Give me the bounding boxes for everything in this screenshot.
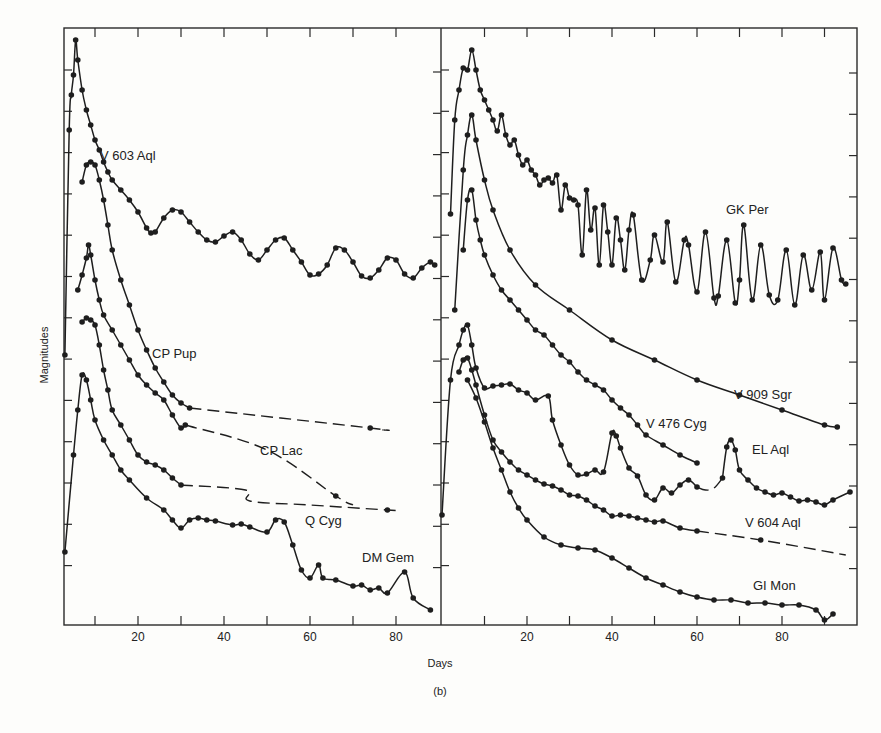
data-point: [135, 209, 141, 215]
data-point: [660, 442, 666, 448]
x-tick-label: 40: [217, 630, 231, 644]
data-point: [170, 475, 176, 481]
series-label: EL Aql: [752, 442, 789, 457]
data-point: [550, 180, 556, 186]
data-point: [376, 585, 382, 591]
data-point: [473, 67, 479, 73]
data-point: [350, 259, 356, 265]
data-point: [660, 582, 666, 588]
data-point: [626, 465, 632, 471]
data-point: [97, 177, 103, 183]
data-point: [118, 187, 124, 193]
data-point: [71, 72, 77, 78]
data-point: [694, 460, 700, 466]
data-point: [333, 493, 339, 499]
data-point: [482, 177, 488, 183]
data-point: [92, 162, 98, 168]
data-point: [109, 327, 115, 333]
data-point: [460, 327, 466, 333]
data-point: [367, 425, 373, 431]
data-point: [482, 419, 488, 425]
data-point: [558, 352, 564, 358]
data-point: [161, 397, 167, 403]
data-point: [728, 597, 734, 603]
data-point: [575, 369, 581, 375]
data-point: [79, 179, 85, 185]
data-point: [170, 207, 176, 213]
data-point: [97, 342, 103, 348]
data-point: [673, 279, 679, 285]
data-point: [537, 182, 543, 188]
data-point: [105, 387, 111, 393]
x-tick-label: 20: [520, 630, 534, 644]
data-point: [516, 307, 522, 313]
data-point: [732, 300, 738, 306]
data-point: [359, 273, 365, 279]
data-point: [118, 467, 124, 473]
dashed-extrapolation-line: [181, 485, 400, 511]
data-point: [562, 182, 568, 188]
data-point: [524, 390, 530, 396]
series-label: CP Lac: [260, 443, 303, 458]
data-point: [626, 412, 632, 418]
data-point: [694, 377, 700, 383]
data-point: [596, 262, 602, 268]
data-point: [715, 293, 721, 299]
data-point: [507, 247, 513, 253]
data-point: [490, 207, 496, 213]
data-point: [779, 490, 785, 496]
data-point: [575, 472, 581, 478]
data-point: [613, 215, 619, 221]
data-point: [686, 242, 692, 248]
data-point: [609, 513, 615, 519]
series-label: V 604 Aql: [745, 515, 801, 530]
data-point: [86, 242, 92, 248]
data-point: [144, 495, 150, 501]
x-tick-label: 60: [690, 630, 704, 644]
data-point: [230, 229, 236, 235]
data-point: [92, 137, 98, 143]
x-axis-label: Days: [427, 657, 453, 669]
data-point: [187, 219, 193, 225]
data-point: [465, 197, 471, 203]
data-point: [264, 247, 270, 253]
data-point: [524, 517, 530, 523]
data-point: [127, 197, 133, 203]
data-point: [601, 202, 607, 208]
data-point: [101, 367, 107, 373]
data-point: [465, 377, 471, 383]
data-point: [105, 169, 111, 175]
data-point: [152, 390, 158, 396]
data-point: [584, 471, 590, 477]
data-point: [507, 297, 513, 303]
data-point: [758, 537, 764, 543]
data-point: [754, 485, 760, 491]
data-point: [170, 517, 176, 523]
data-point: [101, 437, 107, 443]
data-point: [92, 417, 98, 423]
data-point: [830, 497, 836, 503]
data-point: [144, 382, 150, 388]
data-point: [170, 392, 176, 398]
data-point: [213, 239, 219, 245]
data-point: [762, 600, 768, 606]
data-point: [796, 498, 802, 504]
data-point: [469, 47, 475, 53]
data-point: [609, 397, 615, 403]
data-point: [520, 162, 526, 168]
y-axis-label: Magnitudes: [38, 326, 50, 383]
data-point: [469, 112, 475, 118]
data-point: [745, 600, 751, 606]
data-point: [187, 517, 193, 523]
data-point: [558, 542, 564, 548]
data-point: [152, 229, 158, 235]
data-point: [247, 524, 253, 530]
data-point: [333, 577, 339, 583]
data-point: [618, 445, 624, 451]
data-point: [822, 297, 828, 303]
data-point: [66, 127, 72, 133]
data-point: [88, 397, 94, 403]
data-point: [626, 227, 632, 233]
data-point: [238, 521, 244, 527]
data-point: [499, 287, 505, 293]
